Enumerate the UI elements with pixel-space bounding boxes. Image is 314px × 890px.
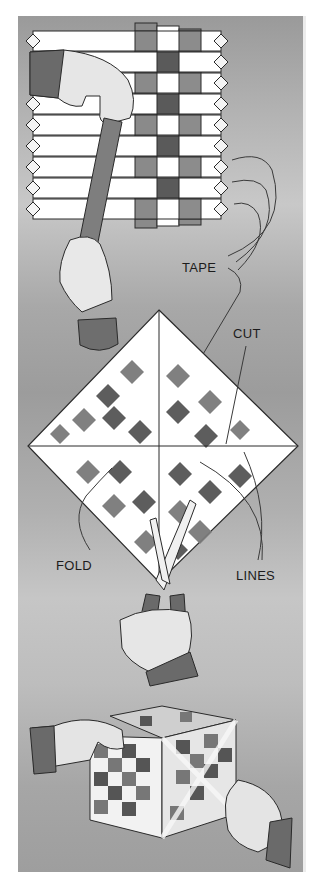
label-tape: TAPE <box>182 260 216 275</box>
scissor-hand <box>120 609 198 686</box>
weaving-step <box>26 23 276 366</box>
illustration-canvas <box>0 0 314 890</box>
panel-edge <box>303 16 306 872</box>
label-fold: FOLD <box>56 558 92 573</box>
bottom-hand <box>60 237 118 350</box>
label-lines: LINES <box>236 568 275 583</box>
label-cut: CUT <box>233 326 261 341</box>
cube-step <box>30 706 292 868</box>
